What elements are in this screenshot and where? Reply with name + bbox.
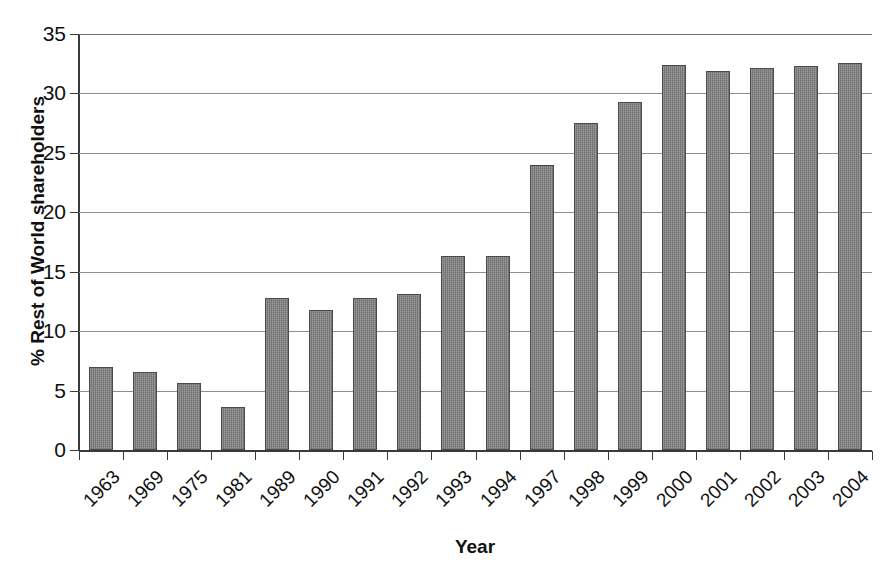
bar-1991 (353, 298, 377, 450)
x-axis-tick (564, 451, 565, 460)
x-axis-tick (123, 451, 124, 460)
x-axis-tick (520, 451, 521, 460)
x-axis-tick (872, 451, 873, 460)
gridline-35 (79, 34, 872, 35)
x-axis-tick-label: 1963 (72, 466, 124, 518)
y-axis-tick-label: 10 (24, 320, 66, 341)
plot-area (79, 34, 872, 450)
y-axis-tick-20 (70, 212, 79, 213)
x-axis-title: Year (0, 536, 890, 558)
x-axis-tick (828, 451, 829, 460)
bar-1989 (265, 298, 289, 450)
x-axis-tick (167, 451, 168, 460)
bar-2001 (706, 71, 730, 450)
bar-1999 (618, 102, 642, 450)
bar-1994 (486, 256, 510, 450)
x-axis-tick-label: 1998 (557, 466, 609, 518)
y-axis-tick-label: 15 (24, 261, 66, 282)
x-axis-tick (79, 451, 80, 460)
x-axis-tick (211, 451, 212, 460)
x-axis-tick (431, 451, 432, 460)
x-axis-tick-label: 1994 (469, 466, 521, 518)
bar-1969 (133, 372, 157, 450)
y-axis-tick-5 (70, 391, 79, 392)
x-axis-tick-label: 1993 (425, 466, 477, 518)
bar-chart-figure: % Rest of World shareholders 05101520253… (0, 0, 890, 566)
x-axis-tick-label: 2004 (821, 466, 873, 518)
y-axis-tick-label: 25 (24, 142, 66, 163)
y-axis-tick-30 (70, 93, 79, 94)
bar-1998 (574, 123, 598, 450)
y-axis-tick-label: 30 (24, 82, 66, 103)
y-axis-tick-label: 35 (24, 23, 66, 44)
y-axis-tick-label: 20 (24, 201, 66, 222)
x-axis-tick-label: 2003 (777, 466, 829, 518)
y-axis-tick-labels: 05101520253035 (14, 0, 66, 566)
x-axis-tick (299, 451, 300, 460)
bar-1993 (441, 256, 465, 450)
x-axis-tick-label: 1992 (381, 466, 433, 518)
x-axis-tick (476, 451, 477, 460)
bar-1963 (89, 367, 113, 450)
bar-2003 (794, 66, 818, 450)
x-axis-tick-label: 1969 (116, 466, 168, 518)
y-axis-tick-10 (70, 331, 79, 332)
x-axis-tick (696, 451, 697, 460)
x-axis-tick (784, 451, 785, 460)
x-axis-title-text: Year (455, 536, 495, 558)
y-axis-tick-35 (70, 34, 79, 35)
bar-1992 (397, 294, 421, 450)
x-axis-tick-label: 1981 (204, 466, 256, 518)
x-axis-tick-label: 1999 (601, 466, 653, 518)
y-axis-tick-15 (70, 272, 79, 273)
y-axis-tick-label: 0 (24, 439, 66, 460)
x-axis-tick-label: 1989 (248, 466, 300, 518)
x-axis-tick-label: 2000 (645, 466, 697, 518)
y-axis-tick-0 (70, 450, 79, 451)
x-axis-tick (740, 451, 741, 460)
bar-1990 (309, 310, 333, 450)
bar-2000 (662, 65, 686, 450)
x-axis-tick-label: 1975 (160, 466, 212, 518)
bar-1997 (530, 165, 554, 450)
y-axis-tick-label: 5 (24, 380, 66, 401)
x-axis-tick (255, 451, 256, 460)
x-axis-tick-label: 2001 (689, 466, 741, 518)
x-axis-tick (343, 451, 344, 460)
bar-1981 (221, 407, 245, 450)
x-axis-tick (652, 451, 653, 460)
x-axis-tick-label: 1990 (293, 466, 345, 518)
x-axis-tick (387, 451, 388, 460)
bar-2002 (750, 68, 774, 450)
x-axis-tick-label: 1997 (513, 466, 565, 518)
bar-2004 (838, 63, 862, 450)
y-axis-tick-25 (70, 153, 79, 154)
bar-1975 (177, 383, 201, 450)
x-axis-tick-label: 1991 (337, 466, 389, 518)
x-axis-tick-label: 2002 (733, 466, 785, 518)
x-axis-tick (608, 451, 609, 460)
